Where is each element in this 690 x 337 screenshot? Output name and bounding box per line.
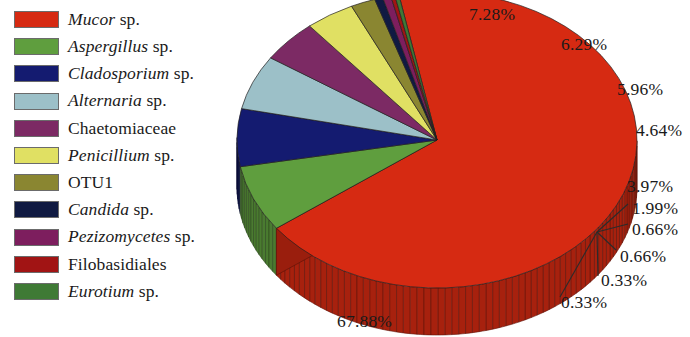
slice-percent-label: 0.33% — [561, 294, 607, 312]
pie-slice-side — [269, 220, 273, 271]
slice-percent-label: 7.28% — [469, 6, 515, 24]
pie-slice-side — [581, 239, 586, 290]
pie-slice-side — [537, 265, 543, 315]
pie-slice-side — [555, 257, 561, 307]
pie-slice-side — [266, 216, 269, 267]
pie-slice-side — [262, 212, 265, 263]
pie-slice-side — [327, 263, 333, 313]
slice-percent-label: 67.88% — [337, 313, 392, 331]
slice-percent-label: 3.97% — [627, 178, 673, 196]
pie-slice-side — [512, 275, 518, 324]
pie-slice-side — [493, 281, 500, 330]
pie-slice-side — [519, 273, 525, 322]
pie-slice-side — [543, 263, 549, 313]
pie-slice-side — [445, 288, 452, 335]
pie-slice-side — [619, 196, 622, 248]
pie-slice-side — [499, 279, 506, 328]
pie-slice-side — [472, 285, 479, 333]
pie-slice-side — [247, 185, 249, 237]
pie-slice-side — [549, 260, 555, 310]
pie-slice-side — [431, 288, 438, 335]
slice-percent-label: 5.96% — [617, 81, 663, 99]
pie-slice-side — [315, 257, 321, 307]
pie-slice-side — [479, 284, 486, 332]
pie-slice-side — [310, 254, 315, 304]
slice-percent-label: 1.99% — [632, 200, 678, 218]
pie-slice-side — [397, 285, 404, 333]
pie-slice-side — [417, 287, 424, 334]
slice-percent-label: 0.33% — [601, 272, 647, 290]
pie-chart-figure: Mucor sp. Aspergillus sp. Cladosporium s… — [0, 0, 690, 337]
pie-slice-side — [403, 286, 410, 334]
pie-slice-side — [424, 288, 431, 335]
pie-slice-side — [438, 288, 445, 335]
pie-slice-side — [452, 287, 459, 334]
pie-slice-side — [571, 247, 576, 297]
pie-slice-side — [321, 260, 327, 310]
pie-slice-side — [259, 208, 262, 259]
pie-slice-side — [466, 286, 473, 334]
pie-slice-side — [486, 282, 493, 330]
pie-slice-side — [251, 195, 254, 246]
slice-percent-label: 0.66% — [620, 248, 666, 266]
pie-slice-side — [590, 231, 594, 282]
pie-slice-side — [410, 287, 417, 335]
slice-percent-label: 4.64% — [636, 122, 682, 140]
pie-slice-side — [531, 268, 537, 317]
pie-slice-side — [622, 191, 625, 243]
pie-slice-side — [332, 266, 338, 316]
pie-slice-side — [254, 199, 257, 250]
pie-slice-side — [256, 203, 259, 254]
pie-slice-side — [273, 224, 277, 275]
slice-percent-label: 0.66% — [632, 221, 678, 239]
slice-percent-label: 6.29% — [561, 36, 607, 54]
pie-slice-side — [459, 286, 466, 334]
pie-slice-side — [249, 190, 251, 242]
pie-slice-side — [525, 271, 531, 320]
pie-slice-side — [585, 235, 590, 286]
pie-slice-side — [506, 277, 512, 326]
